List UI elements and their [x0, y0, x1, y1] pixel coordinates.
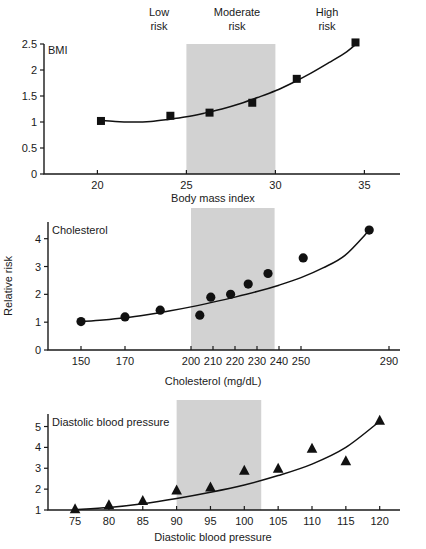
panel-diastolic-blood-pressure: 123457580859095100105110115120 Diastolic…: [0, 400, 426, 549]
x-tick-label-cholesterol-7: 250: [292, 355, 310, 367]
y-tick-label-cholesterol-3: 3: [35, 261, 41, 273]
data-point-diastolic-blood-pressure-9: [374, 415, 385, 425]
data-point-cholesterol-9: [365, 225, 374, 234]
risk-zone-low: Low risk: [149, 6, 169, 32]
data-point-diastolic-blood-pressure-1: [104, 499, 115, 509]
panel-bmi: 00.511.522.520253035 BMI Body mass index: [0, 30, 426, 210]
x-tick-label-cholesterol-2: 200: [182, 355, 200, 367]
series-label-bmi: BMI: [48, 44, 68, 56]
data-point-bmi-1: [166, 112, 174, 120]
y-tick-label-bmi-5: 2.5: [22, 38, 37, 50]
y-tick-label-diastolic-blood-pressure-4: 5: [35, 421, 41, 433]
x-tick-label-diastolic-blood-pressure-6: 105: [269, 515, 287, 527]
data-point-bmi-5: [352, 38, 360, 46]
y-tick-label-cholesterol-2: 2: [35, 288, 41, 300]
y-tick-label-diastolic-blood-pressure-2: 3: [35, 462, 41, 474]
panel-cholesterol: 01234150170200210220230240250290 Cholest…: [0, 208, 426, 393]
data-point-cholesterol-0: [76, 317, 85, 326]
x-tick-label-cholesterol-5: 230: [248, 355, 266, 367]
y-tick-label-cholesterol-1: 1: [35, 316, 41, 328]
x-tick-label-cholesterol-3: 210: [204, 355, 222, 367]
y-tick-label-bmi-1: 0.5: [22, 142, 37, 154]
data-point-bmi-2: [206, 109, 214, 117]
data-point-cholesterol-7: [263, 269, 272, 278]
y-tick-label-diastolic-blood-pressure-3: 4: [35, 441, 41, 453]
data-point-diastolic-blood-pressure-0: [70, 503, 81, 513]
risk-zone-low-line1: Low: [149, 6, 169, 18]
y-tick-label-bmi-2: 1: [31, 116, 37, 128]
data-point-bmi-3: [248, 99, 256, 107]
risk-zone-moderate-line1: Moderate: [214, 6, 260, 18]
y-tick-label-bmi-0: 0: [31, 168, 37, 180]
x-tick-label-bmi-1: 25: [180, 179, 192, 191]
moderate-risk-band-cholesterol: [191, 208, 275, 350]
risk-factor-figure: Low risk Moderate risk High risk 00.511.…: [0, 0, 426, 549]
x-axis-title-bmi: Body mass index: [171, 192, 255, 204]
data-point-diastolic-blood-pressure-7: [307, 443, 318, 453]
x-tick-label-diastolic-blood-pressure-9: 120: [371, 515, 389, 527]
x-axis-title-cholesterol: Cholesterol (mg/dL): [165, 375, 262, 387]
risk-zone-moderate: Moderate risk: [214, 6, 260, 32]
data-point-diastolic-blood-pressure-2: [137, 495, 148, 505]
y-axis-title-relative-risk: Relative risk: [2, 256, 14, 316]
data-point-cholesterol-5: [226, 290, 235, 299]
x-tick-label-cholesterol-0: 150: [72, 355, 90, 367]
x-tick-label-diastolic-blood-pressure-1: 80: [103, 515, 115, 527]
x-tick-label-cholesterol-4: 220: [226, 355, 244, 367]
y-tick-label-diastolic-blood-pressure-0: 1: [35, 504, 41, 516]
x-tick-label-diastolic-blood-pressure-0: 75: [69, 515, 81, 527]
x-tick-label-diastolic-blood-pressure-4: 95: [204, 515, 216, 527]
y-tick-label-cholesterol-0: 0: [35, 344, 41, 356]
data-point-diastolic-blood-pressure-6: [273, 463, 284, 473]
data-point-bmi-4: [293, 75, 301, 83]
x-tick-label-cholesterol-1: 170: [116, 355, 134, 367]
x-axis-title-dbp: Diastolic blood pressure: [154, 531, 271, 543]
data-point-cholesterol-3: [195, 311, 204, 320]
x-tick-label-bmi-2: 30: [269, 179, 281, 191]
data-point-diastolic-blood-pressure-8: [341, 455, 352, 465]
x-tick-label-diastolic-blood-pressure-2: 85: [137, 515, 149, 527]
data-point-cholesterol-2: [156, 306, 165, 315]
series-label-cholesterol: Cholesterol: [52, 224, 108, 236]
data-point-cholesterol-1: [120, 312, 129, 321]
moderate-risk-band-bmi: [186, 44, 275, 174]
series-label-dbp: Diastolic blood pressure: [52, 416, 169, 428]
x-tick-label-bmi-3: 35: [358, 179, 370, 191]
x-tick-label-cholesterol-6: 240: [270, 355, 288, 367]
y-tick-label-cholesterol-4: 4: [35, 233, 41, 245]
x-tick-label-diastolic-blood-pressure-3: 90: [170, 515, 182, 527]
risk-zone-high: High risk: [316, 6, 339, 32]
x-tick-label-cholesterol-8: 290: [380, 355, 398, 367]
data-point-cholesterol-4: [206, 293, 215, 302]
y-tick-label-bmi-4: 2: [31, 64, 37, 76]
data-point-bmi-0: [97, 117, 105, 125]
moderate-risk-band-dbp: [177, 400, 262, 510]
x-tick-label-diastolic-blood-pressure-8: 115: [337, 515, 355, 527]
y-tick-label-diastolic-blood-pressure-1: 2: [35, 483, 41, 495]
x-tick-label-bmi-0: 20: [91, 179, 103, 191]
x-tick-label-diastolic-blood-pressure-7: 110: [303, 515, 321, 527]
x-tick-label-diastolic-blood-pressure-5: 100: [235, 515, 253, 527]
data-point-cholesterol-8: [299, 253, 308, 262]
data-point-cholesterol-6: [244, 279, 253, 288]
risk-zone-high-line1: High: [316, 6, 339, 18]
y-tick-label-bmi-3: 1.5: [22, 90, 37, 102]
